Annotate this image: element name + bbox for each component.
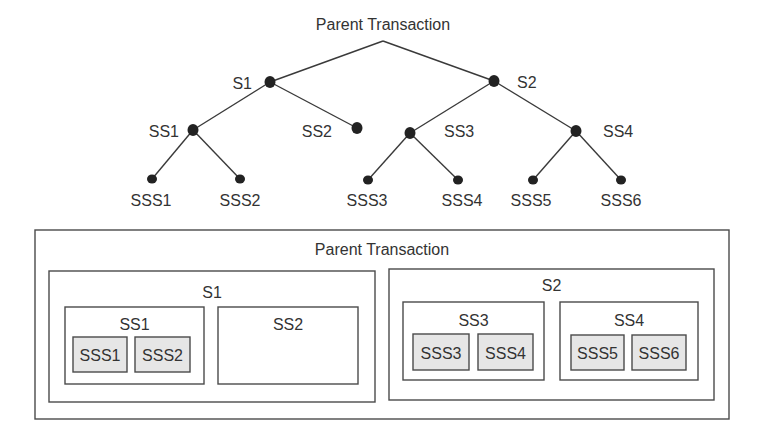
box-sss2: SSS2 (135, 337, 190, 372)
tree-label-sss6: SSS6 (601, 192, 642, 209)
tree-edges (152, 41, 621, 180)
box-label-ss4: SS4 (614, 312, 644, 329)
tree-edge-root-s1 (270, 41, 383, 82)
tree-edge-ss3-sss3 (368, 133, 410, 180)
tree-label-ss2: SS2 (302, 123, 332, 140)
tree-node-s1 (265, 76, 276, 88)
tree-node-ss1 (188, 124, 199, 136)
tree-label-sss5: SSS5 (511, 192, 552, 209)
box-label-sss4: SSS4 (485, 345, 526, 362)
box-label-sss1: SSS1 (80, 347, 121, 364)
tree-node-ss3 (405, 127, 416, 139)
tree-labels: Parent TransactionS1S2SS1SS2SS3SS4SSS1SS… (131, 16, 642, 209)
box-label-s1: S1 (202, 284, 222, 301)
tree-node-sss3 (363, 176, 373, 185)
tree-label-ss1: SS1 (149, 123, 179, 140)
box-sss3: SSS3 (413, 334, 469, 370)
tree-edge-ss4-sss5 (533, 131, 576, 180)
transaction-diagram: Parent TransactionS1S2SS1SS2SS3SS4SSS1SS… (0, 0, 765, 435)
tree-node-s2 (489, 75, 500, 87)
box-label-sss3: SSS3 (421, 345, 462, 362)
tree-node-sss2 (235, 175, 245, 184)
tree-label-ss3: SS3 (444, 123, 474, 140)
box-sss4: SSS4 (478, 334, 533, 370)
tree-edge-ss1-sss2 (193, 130, 240, 179)
tree-node-sss1 (147, 175, 157, 184)
nested-transaction-boxes: Parent TransactionS1S2SS1SS2SS3SS4SSS1SS… (35, 230, 729, 419)
tree-node-ss2 (352, 122, 363, 134)
tree-label-sss4: SSS4 (442, 192, 483, 209)
tree-label-s2: S2 (517, 74, 537, 91)
tree-node-sss6 (616, 176, 626, 185)
tree-root-label: Parent Transaction (316, 16, 450, 33)
box-ss2: SS2 (218, 307, 358, 384)
tree-label-sss1: SSS1 (131, 192, 172, 209)
tree-label-ss4: SS4 (603, 123, 633, 140)
box-label-ss1: SS1 (119, 316, 149, 333)
tree-edge-ss3-sss4 (410, 133, 458, 180)
box-label-s2: S2 (542, 277, 562, 294)
box-label-ss2: SS2 (273, 316, 303, 333)
box-label-parent: Parent Transaction (315, 241, 449, 258)
tree-label-sss3: SSS3 (347, 192, 388, 209)
tree-label-sss2: SSS2 (220, 192, 261, 209)
box-label-sss6: SSS6 (639, 345, 680, 362)
diagram-canvas: Parent TransactionS1S2SS1SS2SS3SS4SSS1SS… (0, 0, 765, 435)
box-label-sss5: SSS5 (577, 345, 618, 362)
tree-nodes (147, 75, 626, 185)
box-sss5: SSS5 (571, 335, 624, 370)
tree-node-sss5 (528, 176, 538, 185)
box-sss1: SSS1 (73, 337, 127, 372)
box-label-ss3: SS3 (458, 312, 488, 329)
tree-edge-s1-ss2 (270, 82, 357, 128)
tree-node-sss4 (453, 176, 463, 185)
box-sss6: SSS6 (632, 335, 686, 370)
tree-label-s1: S1 (232, 75, 252, 92)
box-label-sss2: SSS2 (142, 347, 183, 364)
tree-node-ss4 (571, 125, 582, 137)
tree-edge-root-s2 (383, 41, 494, 81)
